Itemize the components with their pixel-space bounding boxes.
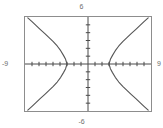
- curve-right-branch: [109, 18, 148, 64]
- graph-screenshot: 6 -9 9 -6: [0, 0, 163, 128]
- plot-frame: [24, 16, 152, 112]
- curve-left-branch: [28, 18, 67, 64]
- x-min-label: -9: [2, 60, 8, 68]
- plot-canvas: [25, 17, 151, 111]
- curve-right-branch-lower: [109, 64, 148, 110]
- y-max-label: 6: [0, 3, 163, 11]
- curve-left-branch-lower: [28, 64, 67, 110]
- x-max-label: 9: [157, 60, 161, 68]
- axes-group: [25, 17, 151, 111]
- y-min-label: -6: [0, 118, 163, 126]
